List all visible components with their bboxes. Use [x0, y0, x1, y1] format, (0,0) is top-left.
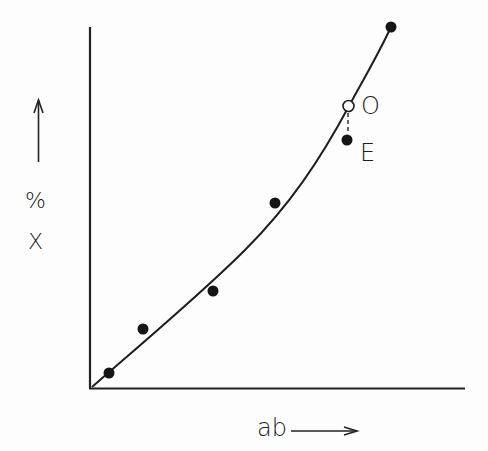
- open-point-o: [343, 101, 354, 112]
- data-point: [270, 198, 281, 209]
- data-point: [138, 324, 149, 335]
- data-point: [386, 22, 397, 33]
- x-axis-label: ab: [257, 416, 287, 440]
- x-arrow-icon: [291, 427, 357, 435]
- fitted-curve: [92, 27, 391, 387]
- annotation-e: E: [360, 141, 375, 165]
- data-point: [208, 286, 219, 297]
- chart-canvas: [0, 0, 488, 451]
- data-point: [104, 368, 115, 379]
- data-points: [104, 22, 397, 379]
- y-arrow-icon: [34, 100, 43, 162]
- annotation-o: O: [361, 94, 380, 118]
- data-point-e: [342, 135, 353, 146]
- y-axis-label-percent: %: [25, 190, 46, 212]
- y-axis-label-x: X: [28, 231, 43, 253]
